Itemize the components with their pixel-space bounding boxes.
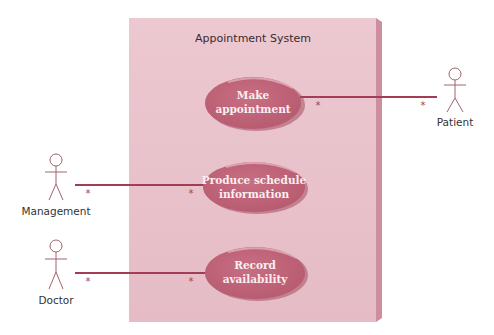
use-case-label-line1: Make — [237, 89, 270, 101]
use-case-label-line2: availability — [223, 273, 289, 285]
multiplicity-doctor: * — [86, 276, 91, 287]
multiplicity-produce-schedule: * — [189, 188, 194, 199]
stick-figure-icon — [444, 68, 466, 112]
multiplicity-record-availability: * — [189, 276, 194, 287]
actor-label: Doctor — [38, 294, 74, 306]
use-case-label-line2: appointment — [215, 103, 290, 115]
multiplicity-management: * — [86, 188, 91, 199]
actor-doctor[interactable]: Doctor — [38, 240, 74, 306]
actor-patient[interactable]: Patient — [437, 68, 474, 128]
use-case-label-line1: Produce schedule — [202, 174, 307, 186]
system-box-side — [376, 18, 382, 322]
actor-label: Patient — [437, 116, 474, 128]
use-case-label-line2: information — [219, 188, 289, 200]
stick-figure-icon — [45, 154, 67, 200]
use-case-label-line1: Record — [234, 259, 276, 271]
stick-figure-icon — [45, 240, 67, 289]
actor-label: Management — [21, 205, 90, 217]
use-case-diagram: Appointment System * * * * * * Make appo… — [0, 0, 494, 335]
multiplicity-make-appointment: * — [316, 100, 321, 111]
multiplicity-patient: * — [421, 100, 426, 111]
system-title: Appointment System — [195, 32, 311, 45]
